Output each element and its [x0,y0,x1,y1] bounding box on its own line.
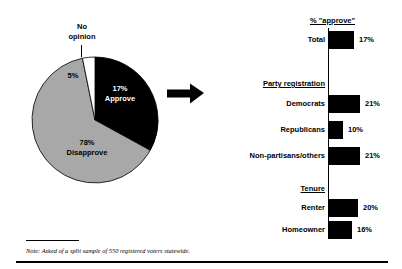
bar-label-homeowner: Homeowner [282,225,325,234]
table-row: Non-partisans/others 21% [230,146,400,166]
no-opinion-leader-line [81,45,82,57]
no-opinion-line-2: opinion [68,32,95,41]
approve-bar-chart: % "approve" Total 17% Party registration… [230,8,400,238]
bar-chart-header: % "approve" [310,16,355,25]
pie-label-no-opinion-value: 5% [59,71,87,81]
pie-disapprove-value: 78% [79,138,94,147]
bar-label-democrats: Democrats [286,99,325,108]
bar-label-renter: Renter [301,203,325,212]
bar-value-renter: 20% [363,203,378,212]
bar-value-non-partisans: 21% [365,151,380,160]
bar-rect-democrats [328,95,360,113]
bar-label-republicans: Republicans [280,125,325,134]
pie-svg [31,56,159,184]
group-header-party-registration: Party registration [263,79,325,88]
pie-label-approve: 17% Approve [91,84,149,103]
bar-value-democrats: 21% [365,99,380,108]
group-header-tenure: Tenure [301,184,325,193]
no-opinion-line-1: No [77,22,87,31]
bar-rect-renter [328,199,358,217]
table-row: Renter 20% [230,198,400,218]
bar-label-total: Total [308,35,325,44]
bottom-rule [16,261,388,263]
poll-results-figure: 17% Approve 78% Disapprove 5% No opinion… [0,0,402,269]
bar-value-homeowner: 16% [357,225,372,234]
pie-label-disapprove: 78% Disapprove [49,138,125,157]
bar-value-republicans: 10% [348,125,363,134]
table-row: Total 17% [230,30,400,50]
pie-approve-name: Approve [105,94,135,103]
table-row: Republicans 10% [230,120,400,140]
bar-rect-republicans [328,121,343,139]
pie-label-no-opinion: No opinion [54,22,110,42]
approval-pie-chart: 17% Approve 78% Disapprove 5% [31,56,159,184]
pie-approve-value: 17% [112,84,127,93]
note-separator-rule [26,240,79,241]
right-arrow-icon [167,82,205,106]
bar-rect-total [328,31,354,49]
table-row: Democrats 21% [230,94,400,114]
bar-rect-non-partisans [328,147,360,165]
bar-label-non-partisans: Non-partisans/others [250,151,325,160]
bar-rect-homeowner [328,221,352,239]
bar-value-total: 17% [359,35,374,44]
table-row: Homeowner 16% [230,220,400,240]
pie-disapprove-name: Disapprove [67,148,108,157]
footnote: Note: Asked of a split sample of 550 reg… [26,247,190,254]
